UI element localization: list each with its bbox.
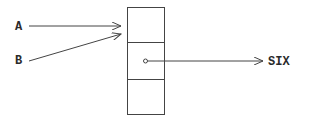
label-b: B <box>15 54 22 68</box>
label-a: A <box>15 20 23 34</box>
arrow-b <box>29 34 121 61</box>
label-six: SIX <box>268 55 290 69</box>
pointer-origin-dot <box>144 59 148 63</box>
pointer-diagram: A B SIX <box>0 0 311 121</box>
